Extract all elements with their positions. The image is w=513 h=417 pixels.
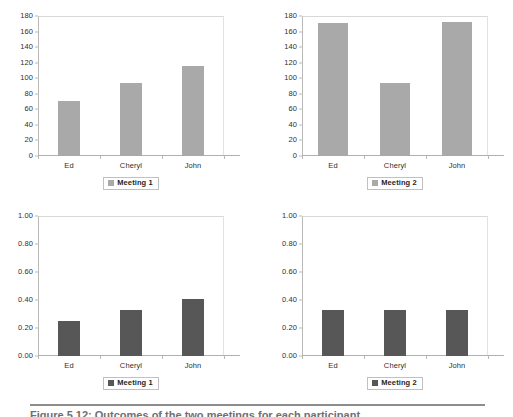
bar-chart-meeting1-proportions: 0.000.200.400.600.801.00 EdCherylJohn Me… — [0, 200, 256, 400]
legend-label: Meeting 2 — [381, 379, 417, 387]
bar — [58, 321, 80, 356]
x-axis-category-label: John — [426, 162, 488, 170]
x-axis-category-label: John — [162, 362, 224, 370]
legend: Meeting 2 — [302, 377, 488, 390]
x-axis-category-label: Ed — [38, 162, 100, 170]
x-axis-labels: EdCherylJohn — [38, 362, 224, 370]
x-axis-category-label: Cheryl — [364, 162, 426, 170]
legend-item-meeting2: Meeting 2 — [367, 177, 423, 190]
x-tick-mark — [488, 156, 489, 159]
x-axis-category-label: Ed — [38, 362, 100, 370]
bar — [380, 83, 409, 156]
x-tick-mark — [224, 356, 225, 359]
bar — [58, 101, 80, 156]
bar-series — [38, 16, 224, 156]
figure-caption: Figure 5.12: Outcomes of the two meeting… — [30, 409, 485, 417]
legend-label: Meeting 1 — [117, 179, 153, 187]
x-axis-category-label: Cheryl — [100, 362, 162, 370]
chart-panel-bottom-right: 0.000.200.400.600.801.00 EdCherylJohn Me… — [256, 200, 513, 400]
bar — [182, 66, 204, 156]
bar — [318, 23, 347, 156]
x-axis-category-label: Ed — [302, 362, 364, 370]
chart-panel-top-right: 020406080100120140160180 EdCherylJohn Me… — [256, 0, 513, 200]
bar-slot — [364, 216, 426, 356]
plot-wrap: 020406080100120140160180 EdCherylJohn Me… — [38, 16, 224, 156]
bar-chart-meeting2-counts: 020406080100120140160180 EdCherylJohn Me… — [256, 0, 513, 200]
x-tick-mark — [100, 156, 101, 159]
x-tick-mark — [426, 156, 427, 159]
x-tick-mark — [224, 156, 225, 159]
bar — [120, 83, 142, 156]
legend-item-meeting1: Meeting 1 — [103, 177, 159, 190]
x-tick-mark — [364, 156, 365, 159]
caption-divider — [30, 404, 485, 406]
bar-slot — [38, 216, 100, 356]
plot-wrap: 0.000.200.400.600.801.00 EdCherylJohn Me… — [302, 216, 488, 356]
legend-swatch-icon — [372, 180, 378, 186]
x-tick-mark — [162, 156, 163, 159]
bar-slot — [162, 216, 224, 356]
bar-slot — [162, 16, 224, 156]
bar-chart-meeting1-counts: 020406080100120140160180 EdCherylJohn Me… — [0, 0, 256, 200]
x-axis-labels: EdCherylJohn — [302, 162, 488, 170]
bar-slot — [38, 16, 100, 156]
bar-slot — [426, 16, 488, 156]
bar — [384, 310, 406, 356]
figure-chart-grid: 020406080100120140160180 EdCherylJohn Me… — [0, 0, 513, 400]
bar-slot — [302, 216, 364, 356]
chart-panel-top-left: 020406080100120140160180 EdCherylJohn Me… — [0, 0, 256, 200]
bar — [322, 310, 344, 356]
legend: Meeting 1 — [38, 177, 224, 190]
legend-item-meeting1: Meeting 1 — [103, 377, 159, 390]
legend-swatch-icon — [108, 180, 114, 186]
bar-slot — [302, 16, 364, 156]
bar — [442, 22, 471, 156]
x-axis-category-label: John — [426, 362, 488, 370]
x-axis-category-label: Cheryl — [100, 162, 162, 170]
bar — [446, 310, 468, 356]
bar-slot — [100, 216, 162, 356]
chart-panel-bottom-left: 0.000.200.400.600.801.00 EdCherylJohn Me… — [0, 200, 256, 400]
x-axis-category-label: Cheryl — [364, 362, 426, 370]
x-tick-mark — [426, 356, 427, 359]
bar-slot — [364, 16, 426, 156]
x-tick-mark — [302, 356, 303, 359]
legend-item-meeting2: Meeting 2 — [367, 377, 423, 390]
plot-wrap: 0.000.200.400.600.801.00 EdCherylJohn Me… — [38, 216, 224, 356]
x-axis-labels: EdCherylJohn — [38, 162, 224, 170]
legend-label: Meeting 1 — [117, 379, 153, 387]
bar-slot — [100, 16, 162, 156]
legend: Meeting 2 — [302, 177, 488, 190]
x-tick-mark — [488, 356, 489, 359]
legend-swatch-icon — [372, 380, 378, 386]
bar — [120, 310, 142, 356]
bar-series — [302, 16, 488, 156]
x-tick-mark — [364, 356, 365, 359]
x-axis-labels: EdCherylJohn — [302, 362, 488, 370]
plot-wrap: 020406080100120140160180 EdCherylJohn Me… — [302, 16, 488, 156]
bar-series — [38, 216, 224, 356]
bar-slot — [426, 216, 488, 356]
legend: Meeting 1 — [38, 377, 224, 390]
x-tick-mark — [38, 156, 39, 159]
x-axis-category-label: John — [162, 162, 224, 170]
x-tick-mark — [100, 356, 101, 359]
legend-label: Meeting 2 — [381, 179, 417, 187]
x-tick-mark — [38, 356, 39, 359]
x-tick-mark — [302, 156, 303, 159]
legend-swatch-icon — [108, 380, 114, 386]
bar-chart-meeting2-proportions: 0.000.200.400.600.801.00 EdCherylJohn Me… — [256, 200, 513, 400]
bar-series — [302, 216, 488, 356]
bar — [182, 299, 204, 356]
x-tick-mark — [162, 356, 163, 359]
x-axis-category-label: Ed — [302, 162, 364, 170]
